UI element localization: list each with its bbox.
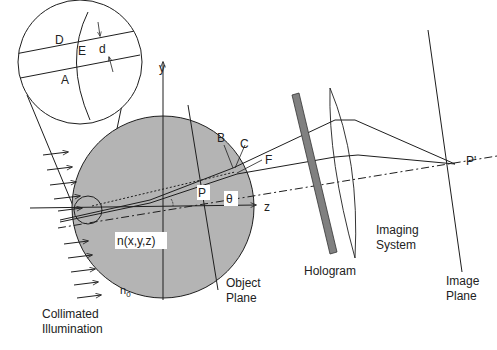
label-P: P — [198, 186, 206, 200]
label-hologram: Hologram — [304, 264, 356, 278]
label-d: d — [99, 42, 106, 56]
optical-diagram: D E d A y z B C F P θ n(x,y,z) n0 Collim… — [0, 0, 497, 350]
label-imaging-system: System — [376, 238, 416, 252]
label-F: F — [265, 153, 272, 167]
imaging-lens — [330, 88, 356, 258]
label-p-prime: P' — [466, 154, 476, 168]
label-imaging: Imaging — [376, 223, 419, 237]
image-plane-line — [428, 30, 462, 272]
label-image: Image — [446, 274, 480, 288]
label-A: A — [61, 73, 69, 87]
label-D: D — [55, 33, 64, 47]
label-B: B — [217, 131, 225, 145]
magnified-inset — [10, 0, 142, 124]
label-illumination: Illumination — [42, 322, 103, 336]
label-theta: θ — [226, 192, 233, 206]
label-refractive-index: n(x,y,z) — [117, 234, 155, 248]
label-object-plane: Plane — [226, 291, 257, 305]
label-C: C — [240, 137, 249, 151]
label-collimated: Collimated — [42, 307, 99, 321]
label-z: z — [264, 200, 270, 214]
label-object: Object — [226, 276, 261, 290]
label-E: E — [78, 44, 86, 58]
label-image-plane: Plane — [446, 289, 477, 303]
label-y: y — [159, 61, 165, 75]
